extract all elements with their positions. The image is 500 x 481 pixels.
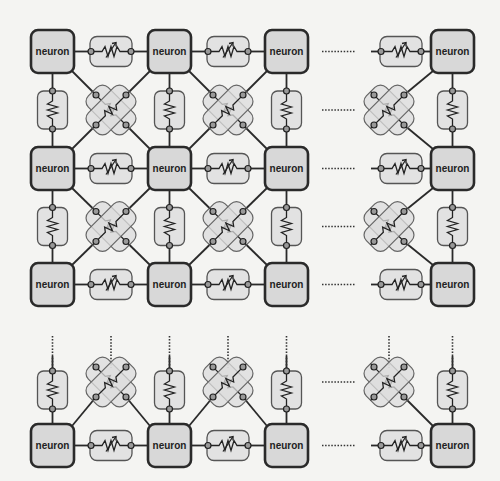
vertical-resistor (38, 205, 68, 249)
terminal-node (450, 243, 456, 249)
terminal-node (450, 368, 456, 374)
terminal-node (88, 49, 94, 55)
neuron-r4-c4: neuron (431, 424, 474, 467)
horizontal-memristor (205, 431, 251, 461)
neuron-r2-c3: neuron (265, 147, 308, 190)
terminal-node (284, 205, 290, 211)
neuron-r2-c2: neuron (148, 147, 191, 190)
terminal-node (401, 92, 407, 98)
terminal-node (284, 88, 290, 94)
terminal-node (123, 394, 129, 400)
terminal-node (210, 122, 216, 128)
terminal-node (93, 239, 99, 245)
terminal-node (401, 209, 407, 215)
terminal-node (50, 126, 56, 132)
neuron-grid-diagram: neuronneuronneuronneuronneuronneuronneur… (0, 0, 500, 481)
neuron-label: neuron (153, 46, 187, 57)
neuron-r2-c1: neuron (31, 147, 74, 190)
neuron-label: neuron (153, 440, 187, 451)
terminal-node (205, 166, 211, 172)
neuron-label: neuron (36, 46, 70, 57)
terminal-node (210, 239, 216, 245)
terminal-node (450, 205, 456, 211)
terminal-node (371, 364, 377, 370)
terminal-node (245, 443, 251, 449)
neuron-label: neuron (436, 46, 470, 57)
horizontal-memristor (88, 270, 134, 300)
horizontal-memristor (378, 154, 424, 184)
terminal-node (88, 166, 94, 172)
terminal-node (371, 239, 377, 245)
terminal-node (245, 49, 251, 55)
terminal-node (93, 209, 99, 215)
terminal-node (50, 243, 56, 249)
terminal-node (371, 394, 377, 400)
terminal-node (240, 92, 246, 98)
terminal-node (450, 88, 456, 94)
neuron-r4-c1: neuron (31, 424, 74, 467)
neuron-label: neuron (36, 440, 70, 451)
horizontal-memristor (205, 154, 251, 184)
horizontal-memristor (378, 270, 424, 300)
terminal-node (93, 394, 99, 400)
terminal-node (167, 126, 173, 132)
terminal-node (123, 209, 129, 215)
terminal-node (167, 88, 173, 94)
neuron-r1-c3: neuron (265, 30, 308, 73)
vertical-resistor (438, 205, 468, 249)
terminal-node (378, 443, 384, 449)
neuron-label: neuron (153, 163, 187, 174)
terminal-node (378, 166, 384, 172)
terminal-node (401, 122, 407, 128)
terminal-node (245, 166, 251, 172)
terminal-node (50, 205, 56, 211)
neuron-label: neuron (436, 163, 470, 174)
neuron-r4-c3: neuron (265, 424, 308, 467)
horizontal-memristor (378, 37, 424, 67)
terminal-node (284, 126, 290, 132)
terminal-node (123, 239, 129, 245)
terminal-node (123, 92, 129, 98)
horizontal-memristor (88, 154, 134, 184)
terminal-node (210, 364, 216, 370)
terminal-node (210, 394, 216, 400)
neuron-r4-c2: neuron (148, 424, 191, 467)
terminal-node (128, 166, 134, 172)
vertical-resistor (155, 88, 185, 132)
terminal-node (167, 406, 173, 412)
neuron-label: neuron (270, 46, 304, 57)
terminal-node (123, 364, 129, 370)
neuron-label: neuron (270, 279, 304, 290)
vertical-resistor (38, 368, 68, 412)
neuron-label: neuron (36, 163, 70, 174)
terminal-node (205, 443, 211, 449)
neuron-label: neuron (436, 279, 470, 290)
terminal-node (240, 239, 246, 245)
terminal-node (128, 443, 134, 449)
terminal-node (284, 368, 290, 374)
terminal-node (284, 406, 290, 412)
terminal-node (418, 443, 424, 449)
vertical-resistor (438, 368, 468, 412)
terminal-node (205, 49, 211, 55)
neuron-r3-c3: neuron (265, 263, 308, 306)
vertical-resistor (272, 205, 302, 249)
terminal-node (167, 205, 173, 211)
vertical-resistor (155, 205, 185, 249)
terminal-node (450, 126, 456, 132)
terminal-node (93, 92, 99, 98)
terminal-node (123, 122, 129, 128)
neuron-label: neuron (270, 440, 304, 451)
terminal-node (401, 239, 407, 245)
terminal-node (88, 282, 94, 288)
terminal-node (240, 364, 246, 370)
neuron-label: neuron (153, 279, 187, 290)
terminal-node (401, 394, 407, 400)
horizontal-memristor (205, 270, 251, 300)
terminal-node (450, 406, 456, 412)
horizontal-memristor (88, 37, 134, 67)
vertical-resistor (272, 88, 302, 132)
neuron-r3-c4: neuron (431, 263, 474, 306)
neuron-label: neuron (36, 279, 70, 290)
terminal-node (371, 122, 377, 128)
